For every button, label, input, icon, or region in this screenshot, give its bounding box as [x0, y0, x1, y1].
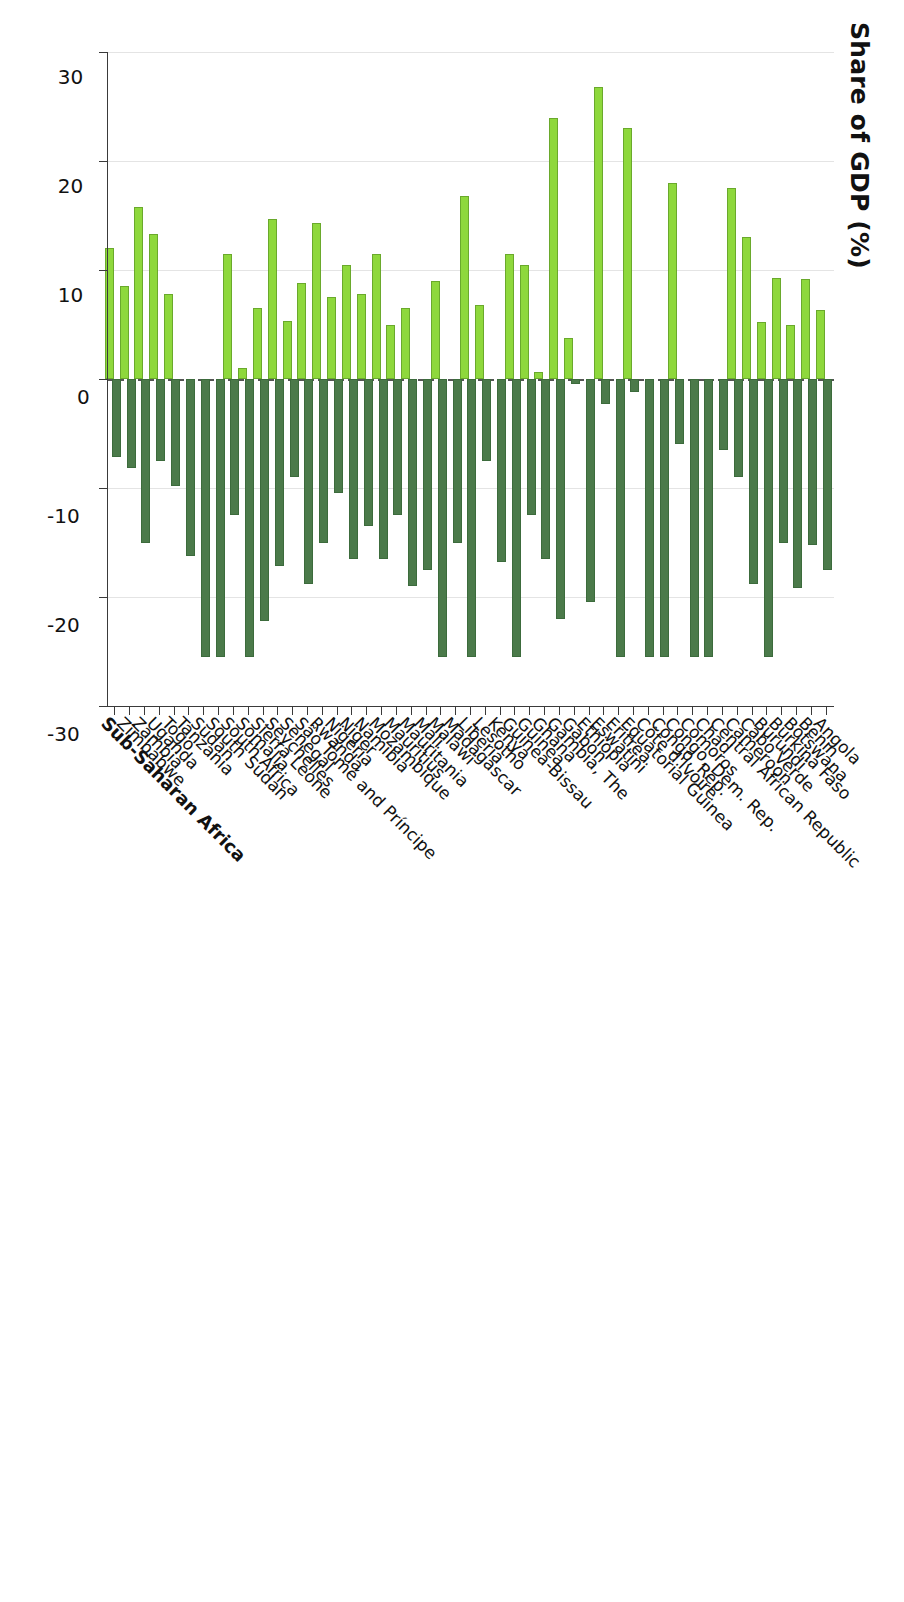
value-axis-tick [99, 52, 108, 53]
category-tick [648, 706, 649, 715]
value-axis-tick [99, 379, 108, 380]
bar-positive [623, 128, 632, 379]
category-tick [351, 706, 352, 715]
category-tick [766, 706, 767, 715]
bar-negative [571, 379, 580, 384]
bar-positive [401, 308, 410, 379]
category-tick [233, 706, 234, 715]
category-tick [277, 706, 278, 715]
category-tick [396, 706, 397, 715]
bar-negative [586, 379, 595, 602]
bar-negative [823, 379, 832, 570]
bar-negative [290, 379, 299, 477]
category-tick [366, 706, 367, 715]
bar-positive [742, 237, 751, 379]
axis-title: Share of GDP (%) [845, 22, 874, 269]
bar-negative [423, 379, 432, 570]
category-tick [218, 706, 219, 715]
bar-positive [786, 325, 795, 380]
value-axis-tick-label: 10 [58, 283, 83, 307]
bar-positive [520, 265, 529, 379]
category-tick [455, 706, 456, 715]
bar-negative [275, 379, 284, 566]
category-tick [781, 706, 782, 715]
bar-positive [342, 265, 351, 379]
category-tick [544, 706, 545, 715]
bar-negative [186, 379, 195, 556]
bar-negative [704, 379, 713, 657]
bar-positive [283, 321, 292, 379]
bar-negative [779, 379, 788, 543]
bar-positive [431, 281, 440, 379]
value-axis-tick [99, 161, 108, 162]
bar-positive [757, 322, 766, 379]
bar-negative [675, 379, 684, 444]
bar-positive [120, 286, 129, 379]
bar-negative [127, 379, 136, 468]
bar-negative [112, 379, 121, 457]
bar-negative [467, 379, 476, 657]
bar-positive [268, 219, 277, 379]
bar-negative [512, 379, 521, 657]
bar-negative [438, 379, 447, 657]
bar-negative [482, 379, 491, 461]
gridline [108, 161, 834, 162]
value-axis-tick [99, 597, 108, 598]
category-tick [692, 706, 693, 715]
category-tick [411, 706, 412, 715]
bar-positive [149, 234, 158, 379]
value-axis-tick [99, 706, 108, 707]
category-tick [174, 706, 175, 715]
bar-positive [505, 254, 514, 379]
bar-negative [304, 379, 313, 584]
bar-negative [630, 379, 639, 392]
bar-negative [793, 379, 802, 588]
bar-negative [764, 379, 773, 657]
value-axis: 3020100-10-20-30 [107, 0, 108, 1602]
category-tick [203, 706, 204, 715]
bar-positive [372, 254, 381, 379]
bar-positive [134, 207, 143, 379]
bar-positive [386, 325, 395, 380]
bar-positive [564, 338, 573, 379]
bar-negative [749, 379, 758, 584]
category-tick [337, 706, 338, 715]
bar-negative [334, 379, 343, 493]
bar-positive [668, 183, 677, 379]
category-tick [559, 706, 560, 715]
bar-negative [453, 379, 462, 543]
bar-negative [245, 379, 254, 657]
bar-negative [527, 379, 536, 515]
bar-positive [223, 254, 232, 379]
category-tick [603, 706, 604, 715]
value-axis-tick-label: -20 [47, 613, 80, 637]
bar-negative [734, 379, 743, 477]
category-tick [470, 706, 471, 715]
category-tick [618, 706, 619, 715]
bar-positive [727, 188, 736, 379]
value-axis-tick-label: -30 [47, 722, 80, 746]
bar-positive [772, 278, 781, 379]
bar-positive [549, 118, 558, 379]
bar-negative [616, 379, 625, 657]
chart-figure: Share of GDP (%) AngolaBeninBotswanaBurk… [0, 0, 904, 1602]
bar-positive [816, 310, 825, 379]
category-tick [633, 706, 634, 715]
category-tick [574, 706, 575, 715]
value-axis-tick-label: -10 [47, 504, 80, 528]
bar-negative [141, 379, 150, 543]
value-axis-tick [99, 270, 108, 271]
bar-negative [497, 379, 506, 562]
bar-positive [475, 305, 484, 379]
bar-negative [349, 379, 358, 559]
rotated-figure-wrapper: Share of GDP (%) AngolaBeninBotswanaBurk… [0, 0, 904, 1602]
bar-positive [594, 87, 603, 379]
category-tick [129, 706, 130, 715]
bar-negative [216, 379, 225, 657]
gridline [108, 270, 834, 271]
bar-negative [601, 379, 610, 404]
value-axis-tick-label: 30 [58, 65, 83, 89]
bar-negative [690, 379, 699, 657]
bar-negative [156, 379, 165, 461]
bar-negative [645, 379, 654, 657]
